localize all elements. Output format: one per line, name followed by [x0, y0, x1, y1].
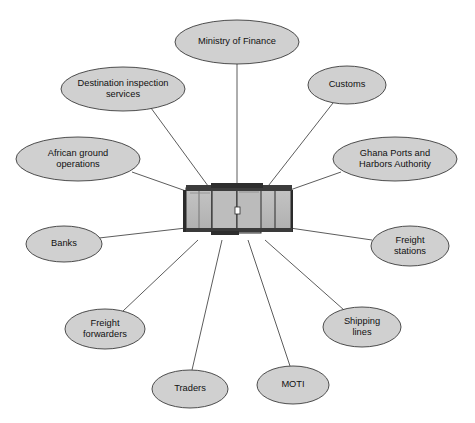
node-ellipse-freight-stations[interactable] [371, 226, 449, 266]
hub-roof-center [211, 183, 263, 188]
spoke-line-shipping-lines [265, 240, 344, 310]
spoke-line-banks [99, 228, 186, 238]
node-ellipse-banks[interactable] [26, 226, 102, 262]
node-ellipse-ministry-of-finance[interactable] [175, 20, 299, 64]
node-ellipse-traders[interactable] [152, 370, 228, 408]
node-ellipse-ghana-ports-and-harbors-authority[interactable] [333, 137, 457, 181]
hub-entrance-door-icon [235, 207, 240, 214]
node-destination-inspection-services[interactable]: Destination inspectionservices [61, 67, 185, 111]
node-shipping-lines[interactable]: Shippinglines [323, 307, 401, 347]
node-ellipse-customs[interactable] [308, 66, 386, 104]
spoke-line-moti [248, 240, 290, 366]
spoke-line-african-ground-operations [132, 172, 186, 191]
node-ellipse-destination-inspection-services[interactable] [61, 67, 185, 111]
spoke-line-freight-forwarders [123, 240, 198, 311]
node-moti[interactable]: MOTI [257, 366, 329, 404]
port-terminal-building [183, 183, 293, 235]
node-freight-stations[interactable]: Freightstations [371, 226, 449, 266]
diagram-svg: Ministry of FinanceDestination inspectio… [0, 0, 475, 423]
node-ellipse-shipping-lines[interactable] [323, 307, 401, 347]
node-african-ground-operations[interactable]: African groundoperations [16, 137, 140, 181]
node-traders[interactable]: Traders [152, 370, 228, 408]
node-ghana-ports-and-harbors-authority[interactable]: Ghana Ports andHarbors Authority [333, 137, 457, 181]
spoke-line-customs [265, 103, 333, 190]
node-ellipse-freight-forwarders[interactable] [65, 309, 145, 349]
hub-tower-right [237, 186, 261, 233]
node-ellipse-african-ground-operations[interactable] [16, 137, 140, 181]
spoke-line-destination-inspection-services [151, 108, 211, 190]
node-ministry-of-finance[interactable]: Ministry of Finance [175, 20, 299, 64]
node-ellipse-moti[interactable] [257, 366, 329, 404]
spoke-line-traders [192, 240, 222, 370]
stakeholder-hub-diagram: Ministry of FinanceDestination inspectio… [0, 0, 475, 423]
node-banks[interactable]: Banks [26, 226, 102, 262]
spoke-line-ghana-ports-and-harbors-authority [290, 172, 341, 190]
hub-tower-left [212, 184, 237, 233]
hub-base-center [211, 231, 239, 235]
spoke-line-freight-stations [290, 228, 372, 240]
node-customs[interactable]: Customs [308, 66, 386, 104]
node-freight-forwarders[interactable]: Freightforwarders [65, 309, 145, 349]
